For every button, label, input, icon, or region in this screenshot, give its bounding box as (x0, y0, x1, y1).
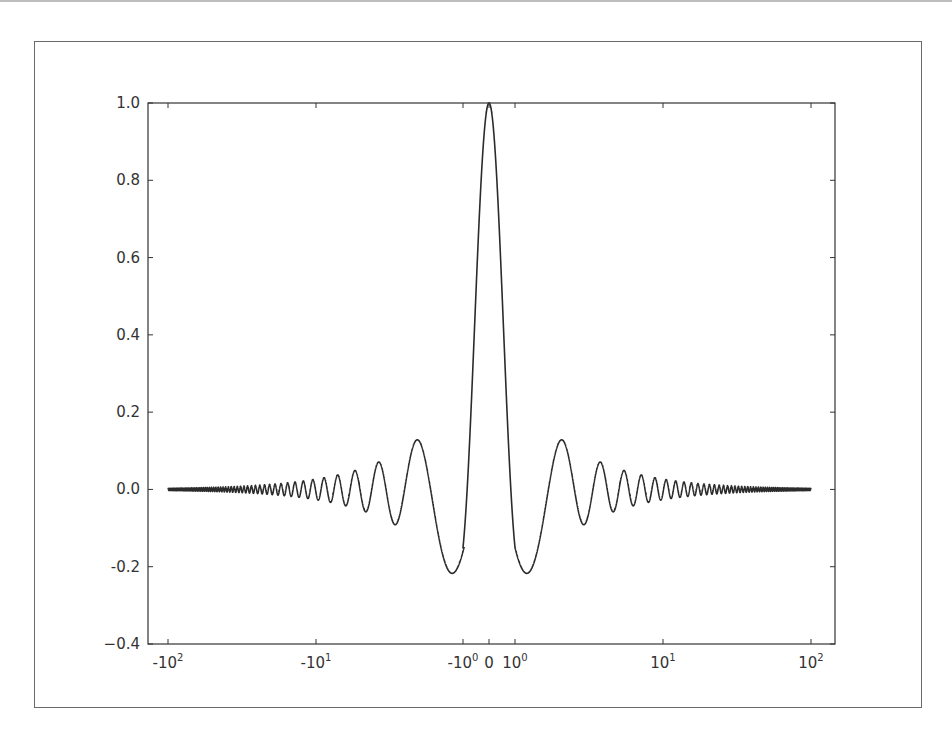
y-tick-label: 1.0 (116, 94, 140, 112)
x-tick-label: 102 (798, 652, 823, 672)
y-tick-label: 0.2 (116, 403, 140, 421)
x-tick-label: 100 (502, 652, 527, 672)
sinc-chart: 1.00.80.60.40.20.0-0.2−0.4 -102-101-1000… (0, 0, 952, 746)
y-tick-label: -0.2 (111, 558, 140, 576)
y-axis: 1.00.80.60.40.20.0-0.2−0.4 (104, 94, 835, 653)
x-tick-label: 0 (484, 654, 494, 672)
y-tick-label: 0.0 (116, 480, 140, 498)
x-axis: -102-101-1000100101102 (153, 103, 824, 672)
sinc-curve (168, 103, 811, 573)
axes-box (148, 103, 835, 644)
y-tick-label: 0.4 (116, 326, 140, 344)
sinc-line (168, 103, 811, 573)
y-tick-label: 0.6 (116, 249, 140, 267)
x-tick-label: -100 (448, 652, 479, 672)
x-tick-label: -102 (153, 652, 184, 672)
x-tick-label: 101 (650, 652, 675, 672)
y-tick-label: −0.4 (104, 635, 140, 653)
y-tick-label: 0.8 (116, 171, 140, 189)
x-tick-label: -101 (301, 652, 332, 672)
